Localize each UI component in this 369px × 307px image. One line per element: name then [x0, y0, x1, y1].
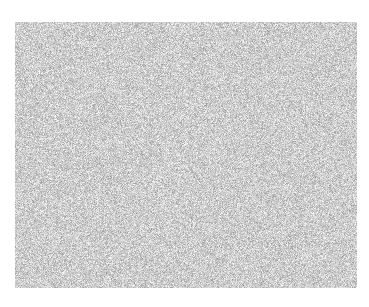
- noise-texture-panel: [15, 22, 357, 288]
- image-stage: [0, 0, 369, 307]
- noise-canvas: [15, 22, 357, 288]
